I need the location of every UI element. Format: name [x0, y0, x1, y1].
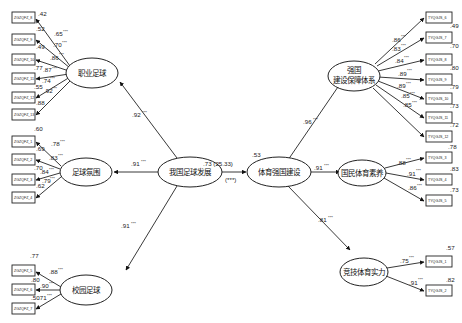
indicator-box: ZGZQFZ_1: [12, 136, 35, 147]
diagram-label: ***: [63, 29, 68, 34]
diagram-label: .91: [131, 160, 140, 167]
diagram-label: ZGZQFZ_4: [14, 196, 32, 200]
diagram-label: ZGZQFZ_10: [14, 58, 34, 62]
diagram-label: ***: [60, 139, 65, 144]
diagram-label: .78: [51, 140, 60, 147]
diagram-label: .83: [392, 45, 401, 52]
diagram-label: ***: [52, 86, 57, 91]
diagram-label: .86: [50, 54, 59, 61]
indicator-box: ZGZQFZ_5: [12, 265, 35, 276]
indicator-box: TYQGJS_6: [426, 12, 452, 23]
diagram-label: .88: [397, 159, 406, 166]
latent-guarantee-system: 强国 建设保障体系: [328, 61, 380, 91]
diagram-label: ***: [49, 281, 54, 286]
diagram-label: ZGZQFZ_6: [14, 288, 32, 292]
diagram-label: .79: [450, 83, 459, 90]
diagram-label: ***: [50, 76, 55, 81]
indicator-box: TYQGJS_3: [426, 152, 452, 163]
diagram-label: ***: [47, 293, 52, 298]
diagram-label: .52: [36, 25, 45, 32]
diagram-label: ZGZQFZ_1: [14, 140, 32, 144]
diagram-label: ***: [401, 43, 406, 48]
diagram-label: .88: [36, 99, 45, 106]
indicators-guarantee: TYQGJS_6 TYQGJS_7 TYQGJS_8 TYQGJS_9 TYQG…: [392, 12, 459, 142]
diagram-label: .96: [303, 118, 312, 125]
diagram-label: .82: [446, 276, 455, 283]
diagram-label: ***: [52, 66, 57, 71]
diagram-label: .84: [395, 57, 404, 64]
diagram-label: ***: [416, 168, 421, 173]
diagram-label: 竞技体育实力: [343, 267, 385, 277]
diagram-label: ZGZQFZ_13: [14, 113, 34, 117]
diagram-label: ZGZQFZ_7: [14, 307, 32, 311]
diagram-label: ***: [407, 68, 412, 73]
central-coefficient: .73 (25.33): [203, 160, 233, 167]
diagram-label: .92: [132, 111, 141, 118]
indicator-box: TYQGJS_11: [426, 112, 452, 123]
diagram-label: .89: [397, 82, 406, 89]
diagram-label: .81: [318, 216, 327, 223]
diagram-label: .49: [450, 22, 459, 29]
diagram-label: TYQGJS_5: [428, 199, 446, 203]
diagram-label: ***: [410, 91, 415, 96]
diagram-label: ***: [131, 221, 136, 226]
central-r2: .53: [252, 151, 261, 158]
diagram-label: .77: [34, 64, 43, 71]
diagram-label: .86: [392, 36, 401, 43]
diagram-label: 职业足球: [78, 68, 107, 78]
indicator-box: TYQGJS_1: [426, 256, 452, 267]
diagram-label: .42: [38, 10, 47, 17]
diagram-label: 足球氛围: [72, 167, 100, 177]
diagram-label: TYQGJS_9: [428, 78, 446, 82]
diagram-label: ***: [58, 267, 63, 272]
diagram-label: .65: [54, 30, 63, 37]
diagram-label: 强国: [347, 66, 361, 75]
diagram-label: ***: [141, 159, 146, 164]
diagram-label: 我国足球发展: [169, 167, 212, 177]
diagram-label: .77: [30, 252, 39, 259]
indicator-box: ZGZQFZ_4: [12, 192, 35, 203]
diagram-label: .72: [450, 121, 459, 128]
latent-sports-power: 体育强国建设: [247, 157, 311, 187]
diagram-label: ZGZQFZ_8: [14, 16, 32, 20]
indicator-box: TYQGJS_5: [426, 195, 452, 206]
edge-to-campus: [126, 186, 177, 270]
diagram-label: .87: [43, 66, 52, 73]
latent-atmosphere: 足球氛围: [60, 158, 112, 186]
diagram-label: .60: [34, 125, 43, 132]
diagram-label: .55: [34, 83, 43, 90]
diagram-label: ZGZQFZ_9: [14, 38, 32, 42]
latent-pro-football: 职业足球: [66, 58, 118, 88]
diagram-label: .90: [40, 282, 49, 289]
indicators-literacy: TYQGJS_3 TYQGJS_4 TYQGJS_5 .78 .83 .73 .…: [397, 143, 459, 206]
diagram-label: ***: [313, 117, 318, 122]
diagram-label: ***: [412, 100, 417, 105]
diagram-label: ***: [328, 215, 333, 220]
diagram-label: .85: [403, 101, 412, 108]
diagram-label: TYQGJS_6: [428, 16, 446, 20]
indicator-box: ZGZQFZ_9: [12, 34, 35, 45]
sem-path-diagram: 我国足球发展 体育强国建设 职业足球 足球氛围 校园足球 强国 建设保障体系 国…: [0, 0, 462, 323]
indicator-box: TYQGJS_4: [426, 174, 452, 185]
diagram-label: ***: [142, 110, 147, 115]
diagram-label: .91: [314, 164, 323, 171]
diagram-label: .85: [401, 92, 410, 99]
diagram-label: .70: [450, 42, 459, 49]
diagram-label: 校园足球: [72, 285, 101, 295]
central-sig: (***): [225, 176, 236, 183]
diagram-label: .70: [53, 41, 62, 48]
diagram-label: ***: [58, 153, 63, 158]
indicator-box: ZGZQFZ_7: [12, 303, 35, 314]
diagram-label: 国民体育素养: [341, 168, 384, 178]
diagram-label: ***: [62, 40, 67, 45]
diagram-label: TYQGJS_8: [428, 58, 446, 62]
indicator-box: ZGZQFZ_13: [12, 109, 35, 120]
indicator-box: ZGZQFZ_3: [12, 174, 35, 185]
diagram-label: ***: [406, 157, 411, 162]
diagram-label: .91: [409, 279, 418, 286]
diagram-label: ***: [418, 277, 423, 282]
edge-to-pro-football: [120, 82, 177, 158]
diagram-label: .78: [448, 143, 457, 150]
diagram-label: .69: [36, 145, 45, 152]
diagram-label: ZGZQFZ_11: [14, 77, 34, 81]
